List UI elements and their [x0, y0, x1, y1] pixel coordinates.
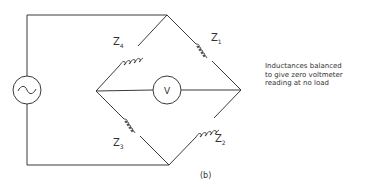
label-z2: Z2 [215, 133, 226, 146]
bottom-wire [27, 104, 169, 165]
inductor-z3 [96, 91, 169, 165]
top-wire [27, 15, 167, 76]
figure-caption: (b) [200, 171, 211, 180]
inductor-z1 [167, 15, 241, 90]
ac-source-icon [13, 76, 41, 104]
note-line: Inductances balanced [265, 62, 365, 71]
label-z3: Z3 [113, 137, 124, 150]
inductor-z2 [169, 90, 241, 165]
note-line: reading at no load [265, 79, 365, 88]
note-line: to give zero voltmeter [265, 71, 365, 80]
voltmeter-icon: V [153, 76, 181, 104]
inductor-z4 [96, 15, 167, 91]
bridge-circuit-diagram: V Z4 Z1 Z3 Z2 [0, 0, 367, 187]
voltmeter-label: V [164, 86, 171, 96]
balance-note: Inductances balanced to give zero voltme… [265, 62, 365, 88]
label-z4: Z4 [113, 36, 124, 49]
meter-wire-left [96, 90, 153, 91]
label-z1: Z1 [211, 32, 222, 45]
